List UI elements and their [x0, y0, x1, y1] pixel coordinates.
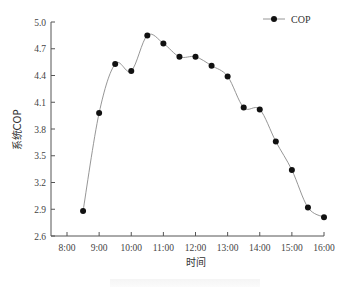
- y-tick-label: 4.1: [34, 98, 46, 108]
- x-tick-label: 16:00: [313, 243, 335, 253]
- data-point: [176, 54, 182, 60]
- y-tick-label: 3.5: [34, 151, 46, 161]
- data-point: [96, 110, 102, 116]
- legend: COP: [263, 14, 311, 25]
- data-point: [144, 32, 150, 38]
- data-point: [112, 61, 118, 67]
- data-point: [193, 54, 199, 60]
- y-tick-label: 3.8: [34, 125, 46, 135]
- x-tick-label: 11:00: [153, 243, 175, 253]
- x-tick-label: 9:00: [91, 243, 108, 253]
- figure-caption-cropped: [110, 279, 260, 287]
- x-axis: 8:009:0010:0011:0012:0013:0014:0015:0016…: [51, 232, 335, 253]
- y-tick-label: 3.2: [34, 178, 46, 188]
- y-axis-title: 系统COP: [11, 110, 23, 151]
- data-point: [273, 138, 279, 144]
- data-point: [160, 40, 166, 46]
- y-axis: 2.62.93.23.53.84.14.44.75.0: [34, 18, 55, 242]
- data-point: [241, 105, 247, 111]
- data-point: [128, 68, 134, 74]
- y-tick-label: 2.9: [34, 205, 46, 215]
- legend-marker-icon: [271, 16, 277, 22]
- data-point: [289, 167, 295, 173]
- y-tick-label: 5.0: [34, 18, 46, 28]
- data-point: [305, 204, 311, 210]
- x-tick-label: 12:00: [185, 243, 207, 253]
- y-tick-label: 2.6: [34, 232, 46, 242]
- data-point: [257, 106, 263, 112]
- data-point: [80, 208, 86, 214]
- y-tick-label: 4.7: [34, 44, 46, 54]
- x-tick-label: 13:00: [217, 243, 239, 253]
- y-tick-label: 4.4: [34, 71, 46, 81]
- data-point: [209, 63, 215, 69]
- cop-line-chart: 2.62.93.23.53.84.14.44.75.0 8:009:0010:0…: [0, 0, 353, 287]
- legend-label: COP: [291, 14, 311, 25]
- x-tick-label: 15:00: [281, 243, 303, 253]
- cop-series-line: [83, 34, 324, 217]
- x-tick-label: 8:00: [59, 243, 76, 253]
- x-tick-label: 14:00: [249, 243, 271, 253]
- x-axis-title: 时间: [186, 256, 206, 268]
- data-point: [225, 73, 231, 79]
- data-point: [321, 214, 327, 220]
- x-tick-label: 10:00: [120, 243, 142, 253]
